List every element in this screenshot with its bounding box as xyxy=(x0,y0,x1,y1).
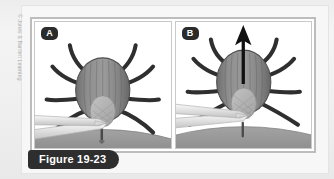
figure-caption-label: Figure 19-23 xyxy=(28,150,119,169)
panel-badge-a: A xyxy=(41,27,58,40)
panel-badge-b: B xyxy=(182,27,199,40)
tick-pull-illustration xyxy=(176,22,312,148)
figure-page: © Jones & Bartlett Learning xyxy=(0,0,334,179)
figure-art-frame: A xyxy=(30,17,316,153)
figure-panel-b: B xyxy=(175,21,313,149)
figure-panel-a: A xyxy=(34,21,172,149)
copyright-rail: © Jones & Bartlett Learning xyxy=(13,14,27,118)
copyright-credit-text: © Jones & Bartlett Learning xyxy=(17,14,23,81)
tick-grasp-illustration xyxy=(35,22,171,148)
